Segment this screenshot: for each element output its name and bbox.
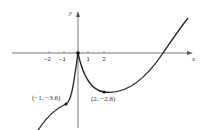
tick-label-m1: −1 [59, 56, 67, 62]
function-graph: −2 −1 1 2 x y (−1, −3.6) (2, −2.8) [0, 0, 208, 130]
curve-right [78, 18, 188, 92]
tick-label-1: 1 [87, 56, 91, 62]
point-right [103, 91, 106, 94]
y-axis-arrow-icon [76, 11, 80, 17]
y-axis-label: y [68, 9, 73, 17]
point-right-label: (2, −2.8) [91, 95, 116, 103]
curve-left [38, 53, 78, 130]
x-axis-label: x [191, 55, 196, 63]
tick-label-2: 2 [103, 56, 107, 62]
tick-label-m2: −2 [44, 56, 52, 62]
origin-point [76, 51, 80, 55]
point-left-label: (−1, −3.6) [32, 94, 61, 102]
point-left [65, 103, 68, 106]
